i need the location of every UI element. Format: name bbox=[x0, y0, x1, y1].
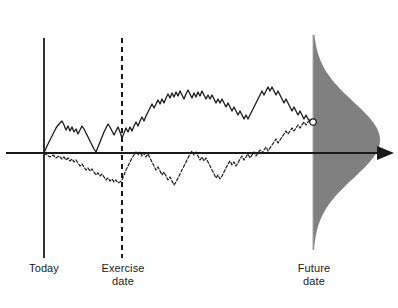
future-date-label: Future date bbox=[282, 262, 346, 287]
option-payoff-diagram: Today Exercise date Future date bbox=[0, 0, 398, 308]
axis-arrow-icon bbox=[377, 146, 394, 160]
path-endpoint-marker bbox=[310, 119, 316, 125]
exercise-date-label: Exercise date bbox=[88, 262, 158, 287]
today-label: Today bbox=[14, 262, 74, 275]
future-date-distribution bbox=[313, 35, 380, 250]
page-caption-fragment bbox=[0, 298, 398, 308]
